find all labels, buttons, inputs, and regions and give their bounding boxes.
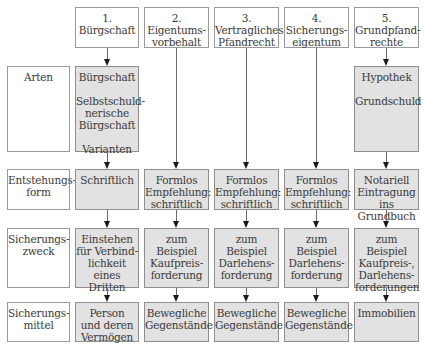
connector-line (246, 288, 247, 295)
arrow-down-icon (104, 59, 110, 66)
connector-line (107, 210, 108, 221)
connector-line (246, 48, 247, 162)
arten-line: Bürgschaft (79, 119, 136, 131)
header-vertragliches-pfandrecht: 3. Vertragliches Pfandrecht (214, 7, 279, 48)
cell-sicherungsmittel-4: Bewegliche Gegenstände (284, 302, 349, 342)
cell-entstehungsform-2: Formlos Empfehlung: schriftlich (144, 169, 209, 210)
cell-entstehungsform-5: Notariell Eintragung ins Grundbuch (354, 169, 419, 210)
connector-line (176, 48, 177, 162)
row-label-sicherungsmittel: Sicherungs- mittel (7, 302, 70, 342)
header-sicherungseigentum: 4. Sicherungs- eigentum (284, 7, 349, 48)
arten-line: Hypothek (361, 71, 411, 83)
connector-line (176, 210, 177, 221)
header-eigentumsvorbehalt: 2. Eigentums- vorbehalt (144, 7, 209, 48)
cell-entstehungsform-4: Formlos Empfehlung: schriftlich (284, 169, 349, 210)
cell-sicherungszweck-5: zum Beispiel Kaufpreis-, Darlehens- ford… (354, 228, 419, 288)
connector-line (107, 152, 108, 162)
cell-arten-buergschaft: Bürgschaft Selbstschuld- nerische Bürgsc… (75, 66, 139, 152)
arten-line: nerische (85, 107, 129, 119)
arrow-down-icon (173, 295, 179, 302)
connector-line (316, 48, 317, 162)
cell-arten-grundpfandrechte: Hypothek Grundschuld (354, 66, 419, 152)
arrow-down-icon (243, 295, 249, 302)
arten-line: Selbstschuld- (76, 95, 145, 107)
cell-entstehungsform-3: Formlos Empfehlung: schriftlich (214, 169, 279, 210)
arrow-down-icon (383, 221, 389, 228)
cell-sicherungszweck-4: zum Beispiel Darlehens- forderung (284, 228, 349, 288)
arrow-down-icon (104, 295, 110, 302)
arrow-down-icon (243, 221, 249, 228)
connector-line (316, 210, 317, 221)
arten-line: Bürgschaft (79, 71, 136, 83)
arrow-down-icon (104, 162, 110, 169)
arrow-down-icon (313, 295, 319, 302)
connector-line (246, 210, 247, 221)
row-label-sicherungszweck: Sicherungs- zweck (7, 228, 70, 288)
header-grundpfandrechte: 5. Grundpfand- rechte (354, 7, 419, 48)
connector-line (386, 210, 387, 221)
arrow-down-icon (173, 162, 179, 169)
arrow-down-icon (173, 221, 179, 228)
arrow-down-icon (243, 162, 249, 169)
connector-line (107, 288, 108, 295)
arrow-down-icon (383, 59, 389, 66)
arrow-down-icon (383, 162, 389, 169)
connector-line (386, 288, 387, 295)
arrow-down-icon (383, 295, 389, 302)
connector-line (316, 288, 317, 295)
arrow-down-icon (104, 221, 110, 228)
cell-entstehungsform-1: Schriftlich (75, 169, 139, 210)
row-label-entstehungsform: Entstehungs- form (7, 169, 70, 210)
arrow-down-icon (313, 162, 319, 169)
cell-sicherungsmittel-5: Immobilien (354, 302, 419, 342)
cell-sicherungsmittel-1: Person und deren Vermögen (75, 302, 139, 342)
cell-sicherungszweck-1: Einstehen für Verbind- lichkeit eines Dr… (75, 228, 139, 288)
cell-sicherungszweck-3: zum Beispiel Darlehens- forderung (214, 228, 279, 288)
connector-line (176, 288, 177, 295)
header-buergschaft: 1. Bürgschaft (75, 7, 139, 48)
arrow-down-icon (313, 221, 319, 228)
row-label-arten: Arten (7, 66, 70, 152)
cell-sicherungsmittel-3: Bewegliche Gegenstände (214, 302, 279, 342)
arten-line: Grundschuld (355, 95, 421, 107)
cell-sicherungsmittel-2: Bewegliche Gegenstände (144, 302, 209, 342)
cell-sicherungszweck-2: zum Beispiel Kaufpreis- forderung (144, 228, 209, 288)
connector-line (386, 152, 387, 162)
